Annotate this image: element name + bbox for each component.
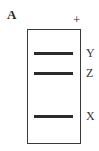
band-label-z: Z <box>86 67 93 79</box>
band-z <box>34 72 73 75</box>
band-x <box>34 115 73 118</box>
band-label-x: X <box>86 110 95 122</box>
band-label-y: Y <box>86 47 95 59</box>
panel-label: A <box>7 8 16 21</box>
gel-lane <box>27 29 81 144</box>
band-y <box>34 52 73 55</box>
positive-electrode-sign: + <box>73 13 80 26</box>
